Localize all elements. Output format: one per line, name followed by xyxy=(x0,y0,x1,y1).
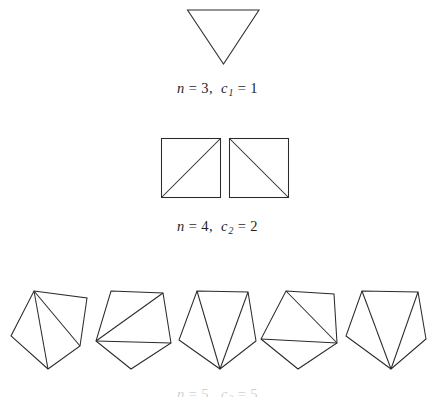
caption-pentagon-equals-2: = xyxy=(238,386,247,397)
pentagon-4-diagonal-a xyxy=(286,291,337,343)
caption-pentagon-equals-1: = xyxy=(189,386,198,397)
caption-square-c-value: 2 xyxy=(250,218,258,234)
caption-pentagon-c-symbol: c xyxy=(221,386,228,397)
pentagon-outline-4 xyxy=(261,291,337,369)
caption-pentagon-n-symbol: n xyxy=(177,386,185,397)
caption-triangle-c-index: 1 xyxy=(228,87,234,98)
caption-pentagon-n-value: 5 xyxy=(201,386,209,397)
square-svg-2 xyxy=(228,130,292,200)
caption-square-c-symbol: c xyxy=(221,218,228,234)
caption-square: n = 4, c2 = 2 xyxy=(0,218,435,236)
caption-pentagon-comma: , xyxy=(209,386,213,397)
caption-square-equals-2: = xyxy=(238,218,247,234)
caption-triangle-n-symbol: n xyxy=(177,80,185,96)
pentagon-svg-2 xyxy=(93,283,179,373)
pentagon-3-diagonal-a xyxy=(197,291,220,369)
triangle-shape-1 xyxy=(186,0,261,66)
pentagon-shape-5 xyxy=(343,283,431,373)
pentagon-svg-5 xyxy=(343,283,431,373)
figure-row-pentagon: n = 5, c3 = 5 xyxy=(0,283,435,396)
caption-pentagon: n = 5, c3 = 5 xyxy=(0,386,435,397)
caption-triangle-equals-1: = xyxy=(189,80,198,96)
caption-square-n-value: 4 xyxy=(201,218,209,234)
pentagon-svg-4 xyxy=(258,283,344,373)
caption-triangle-comma: , xyxy=(209,80,213,96)
triangle-outline xyxy=(188,10,260,64)
pentagon-outline-1 xyxy=(11,291,87,369)
pentagon-1-diagonal-a xyxy=(34,291,80,346)
pentagon-2-diagonal-b xyxy=(96,341,171,343)
square-shape-1 xyxy=(160,130,224,200)
pentagon-shape-1 xyxy=(8,283,94,373)
caption-pentagon-c-index: 3 xyxy=(228,393,234,397)
caption-square-n-symbol: n xyxy=(177,218,185,234)
figure-row-triangle: n = 3, c1 = 1 xyxy=(0,0,435,108)
caption-triangle-equals-2: = xyxy=(238,80,247,96)
pentagon-2-diagonal-a xyxy=(96,293,163,341)
square-svg-1 xyxy=(160,130,224,200)
pentagon-svg-1 xyxy=(8,283,94,373)
square-diagonal-tl-br xyxy=(230,139,289,198)
triangle-svg xyxy=(186,0,261,66)
pentagon-outline-2 xyxy=(96,291,171,369)
pentagon-4-diagonal-b xyxy=(261,339,337,343)
caption-pentagon-c-value: 5 xyxy=(250,386,258,397)
caption-square-equals-1: = xyxy=(189,218,198,234)
caption-triangle: n = 3, c1 = 1 xyxy=(0,80,435,98)
pentagon-svg-3 xyxy=(176,283,262,373)
pentagon-shape-3 xyxy=(176,283,262,373)
pentagon-1-diagonal-b xyxy=(34,291,48,369)
caption-square-comma: , xyxy=(209,218,213,234)
pentagon-5-diagonal-a xyxy=(362,291,391,369)
pentagon-shape-4 xyxy=(258,283,344,373)
pentagon-shape-2 xyxy=(93,283,179,373)
caption-square-c-index: 2 xyxy=(228,225,234,236)
caption-triangle-n-value: 3 xyxy=(201,80,209,96)
caption-triangle-c-value: 1 xyxy=(250,80,258,96)
square-diagonal-bl-tr xyxy=(162,139,221,198)
caption-triangle-c-symbol: c xyxy=(221,80,228,96)
figure-row-square: n = 4, c2 = 2 xyxy=(0,130,435,242)
square-shape-2 xyxy=(228,130,292,200)
